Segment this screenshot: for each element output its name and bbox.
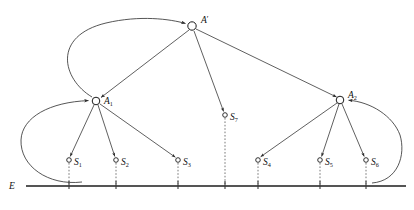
tree-edges [70,29,364,157]
node-sensor-s2[interactable] [114,158,119,163]
label-sensor-s3: S3 [183,157,191,168]
agent-nodes [92,22,344,105]
node-sensor-s6[interactable] [364,158,369,163]
label-agent-2-sub: 2 [354,94,357,101]
node-sensor-s4[interactable] [256,158,261,163]
edge-environment-to-agent2-feedback [349,100,402,183]
label-root-agent: A′ [200,15,209,26]
node-sensor-s5[interactable] [318,158,323,163]
sensor-drop-lines [69,118,366,184]
label-sensor-s5: S5 [325,157,333,168]
edge-root-to-s7 [194,31,224,112]
label-sensor-s3-sub: 3 [188,161,191,168]
edge-root-to-agent1 [101,30,189,98]
label-sensor-s7: S7 [230,112,238,123]
label-sensor-s2-sub: 2 [126,161,129,168]
label-sensor-s6-sub: 6 [376,161,379,168]
label-root-agent-prime: ′ [207,15,209,24]
label-sensor-s1: S1 [74,157,82,168]
edge-agent1-to-s3 [100,104,175,157]
label-sensor-s1-sub: 1 [79,161,82,168]
edge-agent2-to-s6 [342,104,364,157]
edge-environment-to-agent1-feedback [21,101,89,183]
node-sensor-s3[interactable] [176,158,181,163]
label-agent-1: A1 [103,96,113,107]
edge-agent2-to-s4 [261,103,337,157]
label-sensor-s4: S4 [263,157,271,168]
label-sensor-s2: S2 [121,157,129,168]
node-agent-1[interactable] [92,97,100,105]
edge-root-to-agent2 [196,29,337,97]
node-agent-2[interactable] [336,96,344,104]
node-sensor-s7[interactable] [223,113,228,118]
node-sensor-s1[interactable] [67,158,72,163]
sensor-nodes [67,113,369,163]
edge-agent1-to-s1 [70,105,94,157]
edge-agent1-to-root-feedback [67,18,185,97]
node-labels: A′ A1 A2 S1 S2 S3 S7 S4 [8,15,379,192]
label-sensor-s7-sub: 7 [235,116,238,123]
label-agent-2: A2 [347,90,357,101]
node-root-agent[interactable] [188,22,196,30]
diagram-canvas: A′ A1 A2 S1 S2 S3 S7 S4 [0,0,414,210]
label-sensor-s4-sub: 4 [268,161,271,168]
label-sensor-s6: S6 [371,157,379,168]
label-sensor-s5-sub: 5 [330,161,333,168]
label-agent-1-sub: 1 [110,100,113,107]
agent-hierarchy-diagram: A′ A1 A2 S1 S2 S3 S7 S4 [0,0,414,210]
label-environment: E [8,181,15,191]
